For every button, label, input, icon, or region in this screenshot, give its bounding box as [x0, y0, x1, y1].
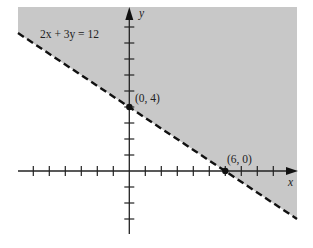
inequality-graph: 2x + 3y = 12 (0, 4) (6, 0) y x	[0, 0, 313, 248]
equation-label: 2x + 3y = 12	[40, 28, 99, 41]
y-axis-label: y	[138, 7, 145, 20]
x-axis-label: x	[287, 176, 294, 188]
point-0-4	[126, 104, 132, 110]
point-0-4-label: (0, 4)	[135, 92, 160, 105]
point-6-0-label: (6, 0)	[227, 153, 252, 166]
point-6-0	[222, 168, 228, 174]
